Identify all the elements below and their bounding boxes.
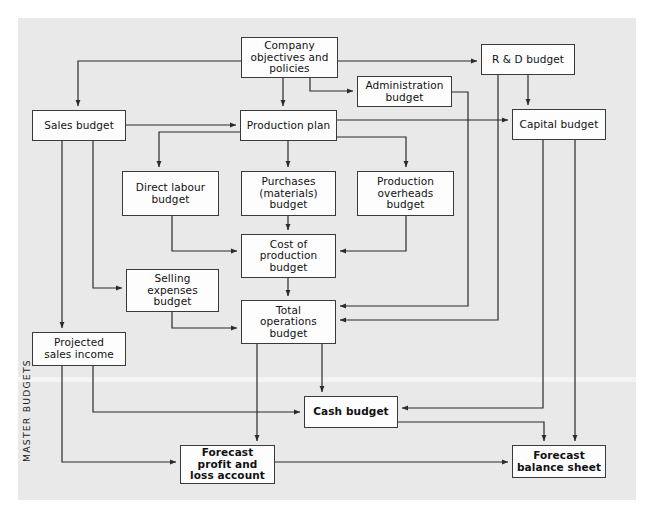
node-label: Forecast profit and loss account xyxy=(187,447,268,482)
diagram-canvas: Company objectives and policies R & D bu… xyxy=(0,0,654,517)
node-label: Selling expenses budget xyxy=(144,273,200,308)
node-cash-budget[interactable]: Cash budget xyxy=(304,396,398,428)
node-direct-labour-budget[interactable]: Direct labour budget xyxy=(122,171,219,216)
node-total-operations-budget[interactable]: Total operations budget xyxy=(241,300,336,344)
node-label: Production overheads budget xyxy=(374,176,437,211)
node-purchases-materials-budget[interactable]: Purchases (materials) budget xyxy=(241,171,336,216)
node-label: Capital budget xyxy=(517,119,602,131)
node-company-objectives[interactable]: Company objectives and policies xyxy=(241,37,338,78)
master-budgets-side-label: MASTER BUDGETS xyxy=(21,357,32,465)
node-label: Purchases (materials) budget xyxy=(256,176,321,211)
node-label: Direct labour budget xyxy=(133,182,209,205)
node-cost-of-production-budget[interactable]: Cost of production budget xyxy=(241,234,336,278)
node-label: Administration budget xyxy=(362,80,446,103)
node-selling-expenses-budget[interactable]: Selling expenses budget xyxy=(126,269,219,312)
node-forecast-profit-and-loss-account[interactable]: Forecast profit and loss account xyxy=(180,445,275,484)
node-production-overheads-budget[interactable]: Production overheads budget xyxy=(357,171,454,216)
node-label: Sales budget xyxy=(41,120,117,132)
node-label: Cost of production budget xyxy=(257,239,320,274)
node-label: Production plan xyxy=(244,120,333,132)
node-projected-sales-income[interactable]: Projected sales income xyxy=(32,332,126,366)
node-capital-budget[interactable]: Capital budget xyxy=(512,109,606,140)
node-administration-budget[interactable]: Administration budget xyxy=(357,76,452,107)
node-label: Cash budget xyxy=(310,406,391,418)
node-label: R & D budget xyxy=(489,54,567,66)
node-rd-budget[interactable]: R & D budget xyxy=(481,44,575,75)
node-label: Total operations budget xyxy=(257,305,320,340)
node-label: Forecast balance sheet xyxy=(514,450,604,473)
node-sales-budget[interactable]: Sales budget xyxy=(32,110,126,141)
node-label: Company objectives and policies xyxy=(248,40,332,75)
node-label: Projected sales income xyxy=(41,337,117,360)
node-forecast-balance-sheet[interactable]: Forecast balance sheet xyxy=(512,445,606,478)
node-production-plan[interactable]: Production plan xyxy=(240,110,337,141)
